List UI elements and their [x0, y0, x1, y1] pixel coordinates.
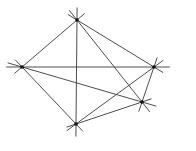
node-E — [74, 122, 78, 126]
node-A — [75, 18, 79, 22]
edge-B-E — [15, 60, 83, 132]
edge-C-E — [67, 60, 164, 131]
graph-svg — [0, 0, 196, 151]
edge-D-E — [67, 99, 152, 127]
node-D — [140, 100, 144, 104]
edge-A-B — [14, 14, 84, 74]
edge-A-C — [68, 14, 163, 72]
edge-A-D — [69, 10, 150, 112]
diagram-canvas — [0, 0, 196, 151]
edges-layer — [6, 8, 170, 137]
node-C — [152, 65, 156, 69]
edge-B-D — [8, 63, 157, 106]
edge-A-E — [76, 8, 77, 137]
node-B — [20, 65, 24, 69]
